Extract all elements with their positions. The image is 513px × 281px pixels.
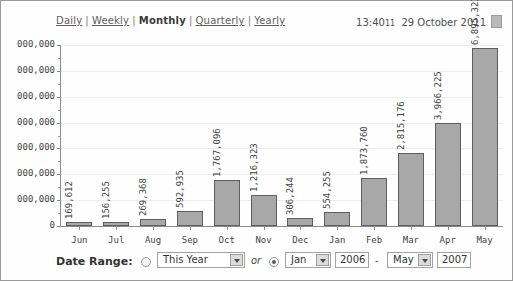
bar-slot: 306,244 [282, 45, 319, 226]
y-axis-label: 000,000 [0, 117, 55, 127]
panel-header: Daily|Weekly|Monthly|Quarterly|Yearly 13… [1, 15, 513, 33]
x-axis-tick [227, 226, 228, 230]
x-axis-label: Feb [356, 235, 393, 245]
to-month-value: May [393, 253, 414, 267]
y-axis-label: 000,000 [0, 65, 55, 75]
x-axis-tick [374, 226, 375, 230]
nav-separator: | [245, 15, 255, 26]
from-year-input[interactable]: 2006 [335, 252, 369, 268]
x-axis-tick [116, 226, 117, 230]
to-month-select[interactable]: May [387, 252, 433, 268]
period-nav: Daily|Weekly|Monthly|Quarterly|Yearly [56, 15, 285, 26]
chevron-down-icon[interactable] [418, 254, 431, 266]
x-axis-label: Apr [429, 235, 466, 245]
x-axis-label: Jun [61, 235, 98, 245]
bar-slot: 156,255 [98, 45, 135, 226]
custom-range-radio[interactable] [269, 257, 279, 267]
bar-slot: 1,873,760 [356, 45, 393, 226]
x-axis-label: Mar [393, 235, 430, 245]
x-axis-label: Aug [135, 235, 172, 245]
bar-value-label: 169,612 [64, 181, 74, 219]
chart-bar[interactable] [472, 48, 498, 226]
x-axis-label: Nov [245, 235, 282, 245]
bar-value-label: 269,368 [138, 178, 148, 216]
x-axis-tick [337, 226, 338, 230]
chevron-down-icon[interactable] [316, 254, 329, 266]
nav-item-quarterly[interactable]: Quarterly [196, 15, 245, 26]
chart-bar[interactable] [287, 218, 313, 226]
timestamp-seconds: 11 [385, 19, 395, 28]
date-range-controls: Date Range: This Year or Jan 2006 - May … [1, 251, 513, 275]
chart-bar[interactable] [435, 123, 461, 226]
plot-area: 0000,000000,000000,000000,000000,000000,… [60, 45, 503, 227]
timestamp-time: 13:40 [356, 17, 385, 28]
bar-value-label: 3,966,225 [433, 72, 443, 121]
y-axis-label: 0 [0, 220, 55, 230]
bar-value-label: 1,873,760 [359, 126, 369, 175]
x-axis-label: Jul [98, 235, 135, 245]
bar-slot: 592,935 [172, 45, 209, 226]
bar-value-label: 1,767,096 [212, 129, 222, 178]
x-axis-tick [79, 226, 80, 230]
x-axis-tick [153, 226, 154, 230]
nav-item-weekly[interactable]: Weekly [92, 15, 129, 26]
bar-value-label: 156,255 [101, 181, 111, 219]
x-axis-label: Sep [172, 235, 209, 245]
nav-separator: | [129, 15, 139, 26]
bar-value-label: 6,895,323 [470, 0, 480, 45]
bar-value-label: 1,216,323 [249, 143, 259, 192]
range-conjunction: or [251, 255, 261, 266]
bar-value-label: 2,815,176 [396, 101, 406, 150]
bar-value-label: 306,244 [285, 177, 295, 215]
date-range-label: Date Range: [56, 255, 133, 268]
preset-range-value: This Year [163, 253, 208, 267]
y-axis-label: 000,000 [0, 168, 55, 178]
x-axis-tick [485, 226, 486, 230]
bar-slot: 3,966,225 [429, 45, 466, 226]
x-axis-label: Dec [282, 235, 319, 245]
chevron-down-icon[interactable] [230, 254, 243, 266]
chart-bar[interactable] [140, 219, 166, 226]
bar-slot: 269,368 [135, 45, 172, 226]
from-month-select[interactable]: Jan [285, 252, 331, 268]
page-icon[interactable] [491, 15, 502, 28]
chart-bar[interactable] [361, 178, 387, 226]
x-axis-tick [411, 226, 412, 230]
nav-separator: | [186, 15, 196, 26]
bar-slot: 169,612 [61, 45, 98, 226]
timestamp: 13:4011 29 October 2011 [356, 15, 502, 28]
x-axis-tick [300, 226, 301, 230]
y-axis-label: 000,000 [0, 194, 55, 204]
x-axis-tick [264, 226, 265, 230]
nav-item-daily[interactable]: Daily [56, 15, 82, 26]
y-axis-label: 000,000 [0, 142, 55, 152]
chart-bar[interactable] [398, 153, 424, 226]
bar-value-label: 554,255 [322, 171, 332, 209]
x-axis-tick [190, 226, 191, 230]
chart-bar[interactable] [214, 180, 240, 226]
bar-slot: 6,895,323 [466, 45, 503, 226]
range-dash: - [375, 255, 379, 266]
nav-item-yearly[interactable]: Yearly [254, 15, 285, 26]
x-axis-tick [448, 226, 449, 230]
x-axis-label: May [466, 235, 503, 245]
chart-bar[interactable] [324, 212, 350, 226]
preset-range-radio[interactable] [141, 257, 151, 267]
chart-bar[interactable] [251, 195, 277, 226]
bar-slot: 554,255 [319, 45, 356, 226]
y-axis-label: 000,000 [0, 39, 55, 49]
monthly-bar-chart: 0000,000000,000000,000000,000000,000000,… [1, 41, 513, 246]
bar-slot: 2,815,176 [393, 45, 430, 226]
y-axis-tick [57, 226, 61, 227]
y-axis-label: 000,000 [0, 91, 55, 101]
bar-slot: 1,767,096 [208, 45, 245, 226]
to-year-input[interactable]: 2007 [437, 252, 471, 268]
nav-separator: | [82, 15, 92, 26]
x-axis-label: Oct [208, 235, 245, 245]
preset-range-select[interactable]: This Year [157, 252, 245, 268]
nav-item-monthly[interactable]: Monthly [139, 15, 186, 26]
chart-bar[interactable] [177, 211, 203, 226]
bar-value-label: 592,935 [175, 170, 185, 208]
stats-panel: Daily|Weekly|Monthly|Quarterly|Yearly 13… [0, 0, 513, 281]
from-month-value: Jan [291, 253, 306, 267]
